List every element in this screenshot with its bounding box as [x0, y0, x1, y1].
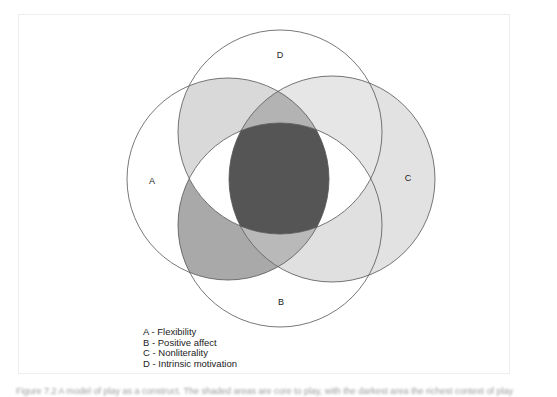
legend-item-a: A - Flexibility — [143, 327, 237, 338]
label-a: A — [149, 176, 155, 186]
legend: A - Flexibility B - Positive affect C - … — [143, 327, 237, 369]
label-c: C — [405, 173, 412, 183]
figure-caption: Figure 7.2 A model of play as a construc… — [16, 386, 513, 396]
legend-item-d: D - Intrinsic motivation — [143, 359, 237, 370]
label-d: D — [277, 50, 284, 60]
label-b: B — [278, 297, 284, 307]
legend-item-c: C - Nonliterality — [143, 348, 237, 359]
